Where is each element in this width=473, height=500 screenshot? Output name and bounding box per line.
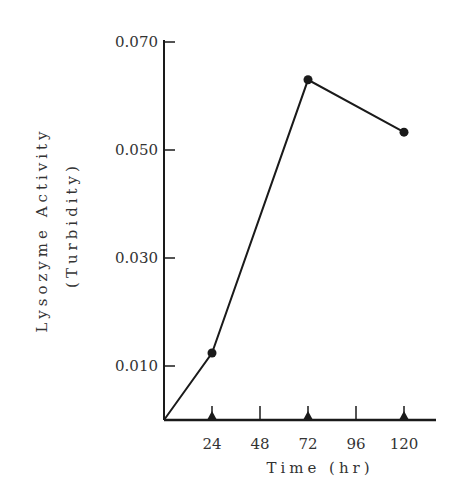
x-tick-label: 120 (390, 435, 419, 453)
y-tick-label: 0.010 (115, 357, 158, 375)
y-tick-label: 0.050 (115, 141, 158, 159)
data-point (304, 75, 313, 84)
x-tick-label: 72 (298, 435, 317, 453)
y-axis-title-line1: Lysozyme Activity (33, 128, 51, 333)
y-tick-label: 0.070 (115, 33, 158, 51)
y-tick-label: 0.030 (115, 249, 158, 267)
x-ticks: 24487296120 (202, 406, 418, 453)
series (164, 75, 409, 420)
x-tick-label: 96 (346, 435, 365, 453)
x-triangle-marker (207, 411, 217, 420)
data-point (208, 349, 217, 358)
data-point (400, 128, 409, 137)
x-tick-label: 48 (250, 435, 269, 453)
chart: 0.0100.0300.0500.070 24487296120 Time (h… (0, 0, 473, 500)
x-axis-title: Time (hr) (266, 459, 373, 477)
series-line (164, 80, 404, 420)
x-triangle-marker (303, 411, 313, 420)
y-ticks: 0.0100.0300.0500.070 (115, 33, 175, 375)
x-triangle-marker (399, 411, 409, 420)
x-tick-label: 24 (202, 435, 221, 453)
y-axis-title-line2: (Turbidity) (63, 162, 81, 288)
